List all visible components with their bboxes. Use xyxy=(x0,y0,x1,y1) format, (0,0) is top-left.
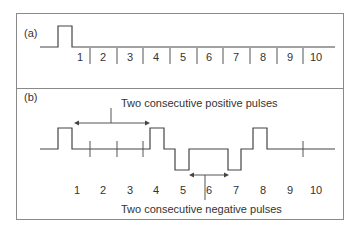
panel-b-slot-labels: 1 2 3 4 5 6 7 8 9 10 xyxy=(74,184,322,196)
annotation-negative-pulses: Two consecutive negative pulses xyxy=(121,203,282,215)
positive-pulses-arrow xyxy=(74,108,150,126)
svg-text:9: 9 xyxy=(287,184,293,196)
svg-text:10: 10 xyxy=(310,184,322,196)
svg-text:7: 7 xyxy=(233,51,239,63)
panel-a-slot-labels: 1 2 3 4 5 6 7 8 9 10 xyxy=(77,51,322,63)
annotation-positive-pulses: Two consecutive positive pulses xyxy=(121,97,278,109)
svg-text:4: 4 xyxy=(153,184,159,196)
svg-text:1: 1 xyxy=(74,184,80,196)
svg-text:7: 7 xyxy=(233,184,239,196)
panel-a-label: (a) xyxy=(24,27,37,39)
svg-text:4: 4 xyxy=(153,51,159,63)
pulse-diagram: (a) 1 2 3 4 5 6 7 8 9 10 (b) Two consecu… xyxy=(0,0,357,232)
svg-text:3: 3 xyxy=(127,184,133,196)
svg-text:6: 6 xyxy=(206,51,212,63)
svg-text:3: 3 xyxy=(127,51,133,63)
panel-a-slot-dividers xyxy=(90,48,303,64)
panel-b-waveform xyxy=(40,128,335,170)
svg-text:8: 8 xyxy=(260,184,266,196)
panel-a-waveform xyxy=(40,26,335,47)
svg-text:10: 10 xyxy=(310,51,322,63)
svg-text:2: 2 xyxy=(100,51,106,63)
svg-text:2: 2 xyxy=(100,184,106,196)
svg-text:1: 1 xyxy=(77,51,83,63)
svg-text:5: 5 xyxy=(180,51,186,63)
svg-text:9: 9 xyxy=(287,51,293,63)
svg-text:6: 6 xyxy=(206,184,212,196)
svg-text:5: 5 xyxy=(180,184,186,196)
svg-text:8: 8 xyxy=(260,51,266,63)
panel-b-label: (b) xyxy=(24,91,37,103)
